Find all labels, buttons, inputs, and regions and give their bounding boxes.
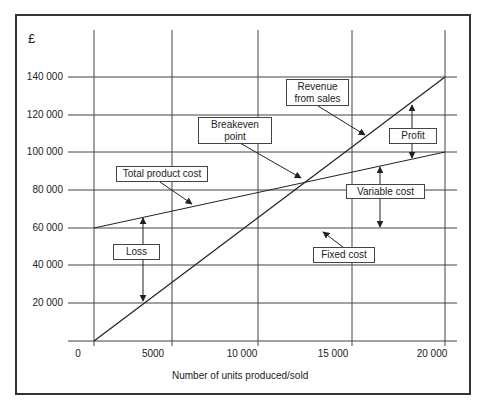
breakeven-label-line1: Breakeven (211, 119, 259, 131)
revenue-label-box: Revenue from sales (286, 79, 349, 106)
breakeven-label-line2: point (224, 131, 246, 143)
fixed-cost-label: Fixed cost (321, 249, 367, 261)
x-tick-label: 10 000 (217, 349, 267, 359)
x-axis-title: Number of units produced/sold (172, 371, 308, 381)
y-tick-label: 80 000 (3, 185, 63, 195)
y-tick-label: 100 000 (3, 147, 63, 157)
y-tick-label: 60 000 (3, 223, 63, 233)
revenue-label-line1: Revenue (297, 81, 337, 93)
y-tick-label: 20 000 (3, 298, 63, 308)
profit-label: Profit (401, 130, 424, 142)
variable-cost-label: Variable cost (357, 186, 414, 198)
y-tick-label: 120 000 (3, 110, 63, 120)
x-tick-label: 20 000 (407, 349, 457, 359)
loss-label-box: Loss (113, 244, 160, 260)
revenue-label-line2: from sales (294, 93, 340, 105)
breakeven-label-box: Breakeven point (198, 117, 272, 144)
x-tick-label: 15 000 (308, 349, 358, 359)
total-cost-label-box: Total product cost (116, 166, 208, 182)
x-tick-label: 5000 (128, 349, 178, 359)
loss-label: Loss (126, 246, 147, 258)
variable-cost-label-box: Variable cost (346, 184, 425, 199)
total-cost-label: Total product cost (123, 168, 201, 180)
y-tick-label: 140 000 (3, 72, 63, 82)
y-axis-currency-label: £ (28, 32, 35, 45)
x-tick-label: 0 (53, 349, 103, 359)
y-tick-label: 40 000 (3, 260, 63, 270)
fixed-cost-label-box: Fixed cost (313, 247, 375, 263)
profit-label-box: Profit (389, 128, 437, 144)
